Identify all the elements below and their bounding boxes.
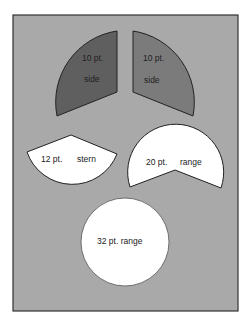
right-side-size-label: 10 pt.	[143, 53, 164, 63]
stern-size-label: 12 pt.	[41, 154, 62, 164]
stern-type-label: stern	[77, 154, 96, 164]
left-side-type-label: side	[84, 74, 100, 84]
range-20-type-label: range	[180, 157, 202, 167]
range-32-label: 32 pt. range	[97, 236, 143, 246]
range-32-circle: 32 pt. range	[81, 198, 169, 286]
right-side-type-label: side	[144, 75, 160, 85]
light-sector-diagram: 10 pt. side 10 pt. side 12 pt. stern 20 …	[0, 0, 246, 317]
left-side-size-label: 10 pt.	[82, 53, 103, 63]
range-20-size-label: 20 pt.	[146, 157, 167, 167]
